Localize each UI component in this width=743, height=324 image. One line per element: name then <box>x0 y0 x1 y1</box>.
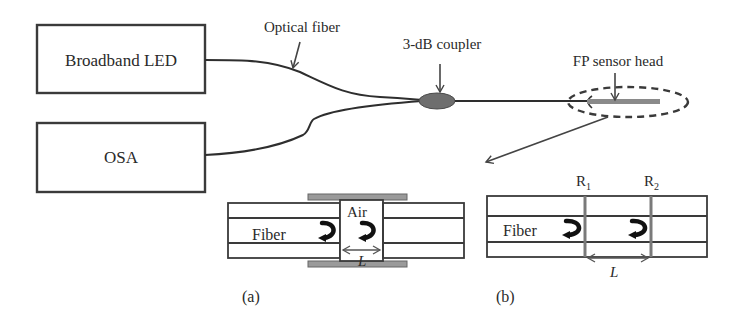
mirror-r1-label: R1 <box>576 173 591 192</box>
caption-a: (a) <box>242 288 260 306</box>
broadband-led-label: Broadband LED <box>65 51 177 70</box>
coupler-label: 3-dB coupler <box>403 36 482 52</box>
osa-label: OSA <box>104 148 139 167</box>
sensor-head-bar <box>587 99 660 104</box>
inset-a: Fiber Air L (a) <box>228 194 464 306</box>
reflection-arrowhead-icon <box>318 234 326 242</box>
osa-box: OSA <box>37 123 205 192</box>
fiber-label-a: Fiber <box>252 226 286 243</box>
optical-fiber-label: Optical fiber <box>264 19 340 35</box>
length-label-b: L <box>609 264 618 280</box>
setup-diagram: Broadband LED OSA Optical fiber 3-dB cou… <box>0 0 743 324</box>
inset-b: Fiber R1 R2 L (b) <box>487 173 707 306</box>
fiber-label-b: Fiber <box>503 222 537 239</box>
zoom-pointer-arrow-icon <box>486 117 608 162</box>
fiber-led-to-coupler <box>205 60 422 100</box>
reflection-arrowhead-icon <box>562 231 570 239</box>
sensor-head-label: FP sensor head <box>573 53 664 69</box>
right-fiber-a <box>383 203 464 258</box>
mirror-r2-label: R2 <box>644 173 659 192</box>
optical-fiber-arrow-icon <box>293 42 300 68</box>
caption-b: (b) <box>496 288 515 306</box>
broadband-led-box: Broadband LED <box>37 25 205 93</box>
coupler-icon <box>419 93 455 109</box>
reflection-arrowhead-icon <box>628 231 636 239</box>
fiber-osa-to-coupler <box>205 101 422 155</box>
length-label-a: L <box>357 253 366 269</box>
air-label: Air <box>347 204 367 220</box>
